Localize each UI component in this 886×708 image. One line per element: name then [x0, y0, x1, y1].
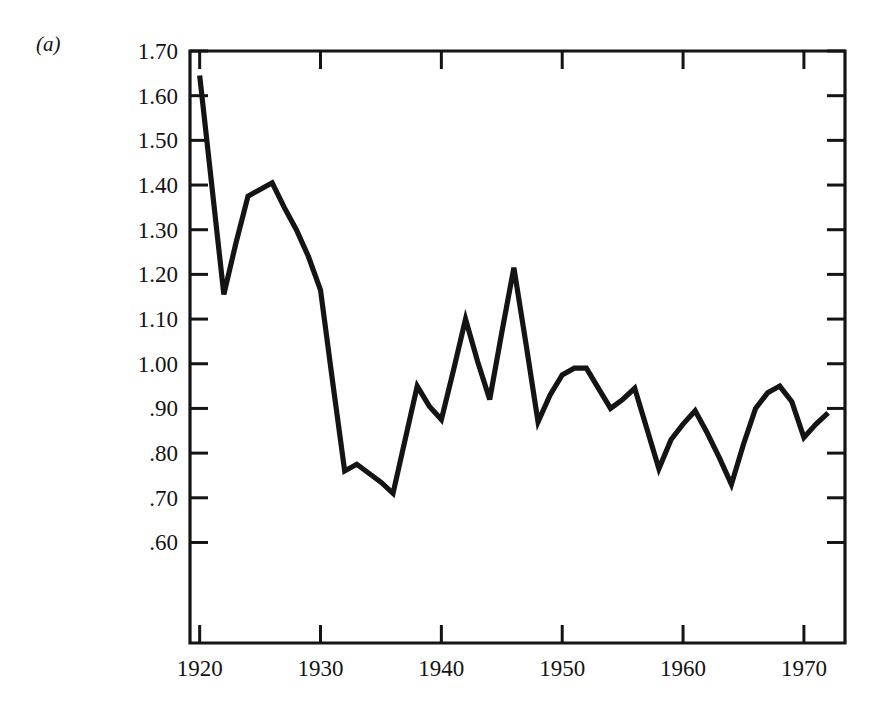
y-axis-tick-label: 1.00 — [98, 353, 178, 376]
y-axis-tick-label: .70 — [98, 487, 178, 510]
y-axis-tick-label: 1.30 — [98, 219, 178, 242]
y-axis-tick-label: 1.10 — [98, 308, 178, 331]
figure-panel: (a) .60.70.80.901.001.101.201.301.401.50… — [0, 0, 886, 708]
x-axis-tick-label: 1930 — [261, 657, 381, 680]
x-axis-tick-label: 1970 — [744, 657, 864, 680]
y-axis-tick-label: 1.60 — [98, 85, 178, 108]
y-axis-tick-label: 1.20 — [98, 263, 178, 286]
y-axis-tick-label: 1.70 — [98, 40, 178, 63]
y-axis-tick-label: 1.50 — [98, 129, 178, 152]
y-axis-tick-label: 1.40 — [98, 174, 178, 197]
y-axis-tick-label: .90 — [98, 397, 178, 420]
x-axis-tick-label: 1950 — [502, 657, 622, 680]
x-axis-tick-label: 1960 — [623, 657, 743, 680]
data-series-line — [200, 76, 828, 494]
x-axis-tick-label: 1940 — [381, 657, 501, 680]
y-axis-tick-label: .80 — [98, 442, 178, 465]
axis-frame — [190, 51, 845, 643]
y-axis-tick-label: .60 — [98, 531, 178, 554]
x-axis-tick-label: 1920 — [140, 657, 260, 680]
